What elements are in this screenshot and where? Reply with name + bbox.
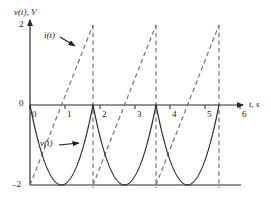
y-axis-title: v(t), V [14,8,37,17]
x-tick-label-2: 2 [102,110,107,119]
series-label-current: i(t) [44,31,55,40]
x-tick-label-3: 3 [137,110,142,119]
x-axis-title-text: t, s [249,99,260,109]
x-tick-label-6: 6 [242,110,247,119]
vt-annotation-arrow [59,143,79,145]
x-tick-label-5: 5 [207,110,212,119]
plot-canvas [0,0,271,202]
x-tick-label-0: 0 [32,110,37,119]
x-tick-label-4: 4 [172,110,177,119]
x-axis-title: t, s [249,100,260,109]
y-tick-label-minus-2: –2 [12,180,21,189]
y-axis-title-text: v(t), V [14,7,37,17]
x-tick-label-1: 1 [67,110,72,119]
series-vt-parabolas [30,105,219,185]
waveform-figure: v(t), V t, s 2 0 –2 0 1 2 3 4 5 6 i(t) v… [0,0,271,202]
series-label-voltage: v(t) [40,139,53,148]
it-annotation-arrow [60,37,75,46]
y-tick-label-2: 2 [19,20,24,29]
y-tick-label-0: 0 [19,99,24,108]
